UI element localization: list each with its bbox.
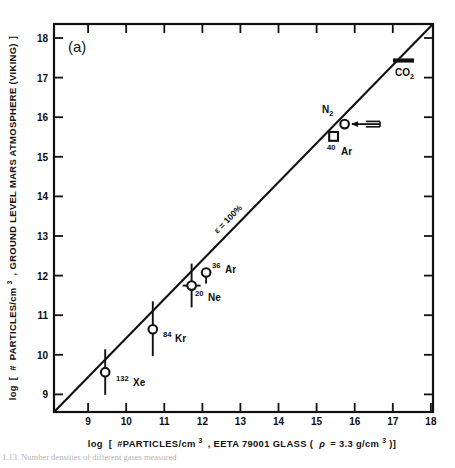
x-tick-labels: 9 10 11 12 13 14 15 16 17 18: [85, 416, 437, 427]
y-axis-ticks-right: [424, 38, 433, 394]
datapoint-label-20ne: Ne: [208, 292, 221, 303]
datapoint-label-20ne-sup: 20: [195, 289, 203, 298]
y-title-bracket: [: [7, 377, 18, 380]
x-title-rho: ρ: [318, 438, 325, 449]
y-tick-label-15: 15: [37, 152, 49, 163]
x-title-particles: #PARTICLES/cm: [117, 438, 195, 449]
reference-line-group: ε = 100%: [55, 25, 433, 412]
upper-limit-arrow-left-icon: [351, 121, 380, 127]
x-axis-ticks: [88, 403, 431, 412]
figure-root: 9 10 11 12 13 14 15 16 17 18: [0, 0, 455, 468]
marker-132xe[interactable]: [101, 368, 110, 377]
datapoint-label-132xe-sup: 132: [116, 374, 129, 383]
y-tick-labels: 9 10 11 12 13 14 15 16 17 18: [37, 33, 49, 400]
x-tick-label-15: 15: [311, 416, 323, 427]
x-tick-label-18: 18: [425, 416, 437, 427]
x-axis-title: log [ #PARTICLES/cm 3 , EETA 79001 GLASS…: [88, 434, 396, 449]
datapoint-label-36ar: Ar: [225, 264, 236, 275]
datapoint-40ar[interactable]: 40 Ar: [327, 132, 352, 157]
x-tick-label-16: 16: [349, 416, 361, 427]
y-title-log: log: [7, 385, 18, 400]
x-tick-label-13: 13: [235, 416, 247, 427]
datapoint-label-co2: CO2: [395, 67, 414, 81]
scatter-plot-canvas: 9 10 11 12 13 14 15 16 17 18: [0, 0, 455, 468]
reference-line-epsilon-100: [55, 25, 433, 412]
panel-label: (a): [68, 38, 86, 55]
x-axis-ticks-top: [88, 24, 393, 33]
datapoint-co2[interactable]: CO2: [393, 61, 414, 82]
x-title-density: = 3.3 g/cm: [330, 438, 379, 449]
y-tick-label-10: 10: [37, 350, 49, 361]
y-tick-label-14: 14: [37, 191, 49, 202]
figure-caption-fragment: 1.13. Number densities of different gase…: [2, 452, 453, 462]
y-title-particles: PARTICLES/cm: [7, 287, 18, 360]
y-tick-label-9: 9: [42, 389, 48, 400]
x-tick-label-11: 11: [159, 416, 170, 427]
marker-36ar[interactable]: [202, 268, 211, 277]
y-axis-ticks: [54, 38, 63, 394]
y-tick-label-18: 18: [37, 33, 49, 44]
x-title-bracket: [: [109, 438, 112, 449]
datapoint-36ar[interactable]: 36 Ar: [202, 261, 236, 284]
datapoint-label-132xe: Xe: [133, 377, 146, 388]
y-title-mars: , GROUND LEVEL MARS ATMOSPHERE (VIKING): [7, 43, 18, 275]
marker-84kr[interactable]: [149, 325, 158, 334]
y-tick-label-13: 13: [37, 231, 49, 242]
marker-n2[interactable]: [340, 120, 349, 129]
x-tick-label-14: 14: [273, 416, 285, 427]
y-tick-label-16: 16: [37, 112, 49, 123]
datapoint-label-40ar-sup: 40: [327, 143, 335, 152]
x-axis-title-group: log [ #PARTICLES/cm 3 , EETA 79001 GLASS…: [88, 434, 396, 449]
y-axis-title: log [ # PARTICLES/cm 3 , GROUND LEVEL MA…: [3, 36, 18, 401]
x-title-sup2: 3: [382, 437, 386, 444]
y-tick-label-11: 11: [37, 310, 48, 321]
x-title-eeta: , EETA 79001 GLASS (: [208, 438, 314, 449]
y-tick-label-17: 17: [37, 73, 49, 84]
y-title-hash: #: [7, 365, 18, 371]
x-title-close: )]: [389, 438, 396, 449]
x-title-sup1: 3: [199, 437, 203, 444]
datapoint-label-n2: N2: [322, 104, 333, 118]
y-tick-label-12: 12: [37, 271, 49, 282]
datapoint-label-84kr-sup: 84: [163, 330, 172, 339]
datapoint-label-40ar: Ar: [341, 146, 352, 157]
marker-40ar[interactable]: [329, 132, 338, 141]
x-tick-label-9: 9: [85, 416, 91, 427]
datapoint-label-36ar-sup: 36: [212, 261, 220, 270]
y-title-close: ]: [7, 36, 18, 39]
y-axis-title-group: log [ # PARTICLES/cm 3 , GROUND LEVEL MA…: [3, 36, 18, 401]
x-tick-label-12: 12: [197, 416, 209, 427]
datapoint-label-84kr: Kr: [175, 333, 186, 344]
reference-line-label-group: ε = 100%: [212, 203, 244, 236]
reference-line-label: ε = 100%: [212, 203, 244, 236]
x-title-log: log: [88, 438, 103, 449]
x-tick-label-17: 17: [387, 416, 399, 427]
y-title-sup1: 3: [6, 280, 13, 284]
x-tick-label-10: 10: [121, 416, 133, 427]
